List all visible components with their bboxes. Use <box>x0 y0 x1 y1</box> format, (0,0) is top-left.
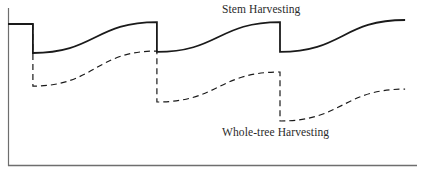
whole-tree-harvesting-line <box>33 24 405 121</box>
whole-tree-harvesting-label: Whole-tree Harvesting <box>222 126 329 138</box>
stem-harvesting-line <box>8 20 405 53</box>
stem-harvesting-label: Stem Harvesting <box>222 3 300 15</box>
harvesting-chart <box>0 0 422 176</box>
